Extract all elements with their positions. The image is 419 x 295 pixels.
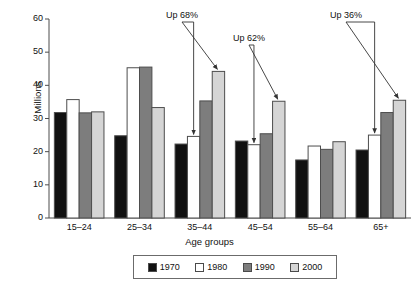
- bar-1980-55–64: [308, 146, 320, 218]
- annotation-arrow-to-2000: [346, 22, 398, 98]
- bar-1970-45–54: [235, 141, 247, 218]
- x-tick-label: 25–34: [110, 222, 170, 232]
- bar-1970-25–34: [115, 136, 127, 218]
- x-tick-label: 65+: [351, 222, 411, 232]
- bar-1980-35–44: [187, 136, 199, 218]
- chart-plot-area: [0, 0, 419, 295]
- legend-swatch-1970: [148, 263, 157, 272]
- legend-label-1980: 1980: [207, 262, 227, 272]
- bar-1970-55–64: [296, 160, 308, 218]
- x-tick-label: 15–24: [49, 222, 109, 232]
- legend-label-2000: 2000: [302, 262, 322, 272]
- x-tick-label: 45–54: [230, 222, 290, 232]
- legend-swatch-1990: [243, 263, 252, 272]
- bar-1990-15–24: [79, 113, 91, 218]
- bar-chart-figure: Millions Age groups 0102030405060 15–242…: [0, 0, 419, 295]
- legend-swatch-1980: [195, 263, 204, 272]
- y-tick-label: 30: [21, 113, 43, 123]
- bar-1990-35–44: [200, 101, 212, 218]
- annotation-arrow-to-2000: [182, 22, 217, 69]
- bar-1980-15–24: [67, 100, 79, 218]
- annotation-label-68pct: Up 68%: [166, 10, 198, 20]
- legend-item-1970: 1970: [148, 262, 180, 272]
- bar-1980-45–54: [248, 145, 260, 218]
- bar-1990-45–54: [260, 134, 272, 218]
- chart-legend: 1970 1980 1990 2000: [133, 255, 337, 279]
- legend-swatch-2000: [290, 263, 299, 272]
- bar-2000-35–44: [212, 71, 224, 218]
- bar-2000-15–24: [92, 112, 104, 218]
- x-axis-title: Age groups: [0, 236, 419, 247]
- bar-2000-45–54: [273, 101, 285, 218]
- legend-label-1990: 1990: [255, 262, 275, 272]
- bar-2000-25–34: [152, 108, 164, 218]
- y-tick-label: 20: [21, 146, 43, 156]
- legend-item-1990: 1990: [243, 262, 275, 272]
- annotation-arrow-to-2000: [249, 45, 278, 99]
- legend-item-2000: 2000: [290, 262, 322, 272]
- y-tick-label: 40: [21, 79, 43, 89]
- annotation-label-36pct: Up 36%: [330, 10, 362, 20]
- legend-item-1980: 1980: [195, 262, 227, 272]
- bar-1980-65+: [368, 135, 380, 218]
- y-tick-label: 60: [21, 13, 43, 23]
- x-tick-label: 35–44: [170, 222, 230, 232]
- y-tick-label: 50: [21, 46, 43, 56]
- bar-1970-65+: [356, 150, 368, 218]
- bar-2000-55–64: [333, 142, 345, 218]
- x-tick-label: 55–64: [291, 222, 351, 232]
- legend-label-1970: 1970: [160, 262, 180, 272]
- bar-1990-55–64: [321, 149, 333, 218]
- bar-1990-65+: [381, 113, 393, 218]
- bar-2000-65+: [393, 100, 405, 218]
- y-tick-label: 0: [21, 212, 43, 222]
- bar-1970-15–24: [54, 113, 66, 218]
- bar-1980-25–34: [127, 68, 139, 218]
- bar-1990-25–34: [140, 67, 152, 218]
- bar-1970-35–44: [175, 144, 187, 218]
- annotation-label-62pct: Up 62%: [233, 33, 265, 43]
- y-tick-label: 10: [21, 179, 43, 189]
